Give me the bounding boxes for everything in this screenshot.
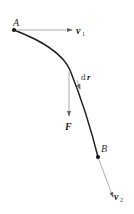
point-a-dot [12, 28, 16, 32]
dr-d-label: d [81, 72, 86, 82]
v1-subscript: 1 [82, 31, 85, 37]
force-label: F [64, 121, 72, 132]
point-a-label: A [12, 17, 20, 28]
trajectory-curve [14, 30, 98, 157]
v1-label: v [76, 25, 81, 36]
v2-label: v [114, 191, 119, 202]
work-diagram: A B v 1 v 2 d r F [0, 0, 134, 214]
point-b-dot [96, 155, 100, 159]
velocity-v2-arrow [98, 157, 113, 197]
diagram-canvas: A B v 1 v 2 d r F [0, 0, 134, 214]
v2-subscript: 2 [120, 197, 123, 203]
point-b-label: B [101, 143, 107, 154]
dr-r-label: r [87, 72, 91, 82]
